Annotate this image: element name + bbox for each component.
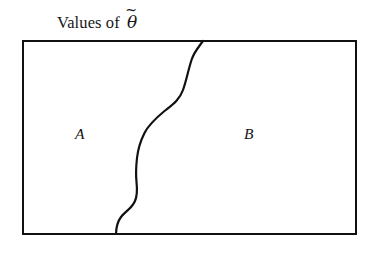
region-label-b: B — [244, 126, 253, 142]
figure-drawing-surface — [0, 0, 378, 262]
figure-container: Values of ~ θ A B — [0, 0, 378, 262]
region-label-a: A — [75, 126, 84, 142]
